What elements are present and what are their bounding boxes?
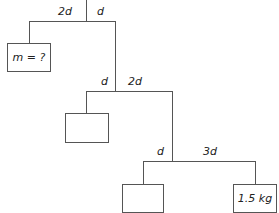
top-bar — [29, 21, 116, 22]
known-mass-box: 1.5 kg — [233, 184, 277, 213]
middle-left-string — [86, 91, 87, 113]
middle-right-arm-label: 2d — [128, 76, 142, 88]
unknown-mass-box: m = ? — [7, 43, 51, 72]
top-left-arm-label: 2d — [58, 6, 72, 18]
bottom-right-arm-label: 3d — [203, 146, 217, 158]
middle-left-box — [65, 113, 109, 143]
bottom-string — [172, 91, 173, 161]
middle-bar — [86, 91, 173, 92]
top-right-arm-label: d — [97, 6, 104, 18]
unknown-mass-string — [29, 21, 30, 43]
bottom-left-string — [143, 161, 144, 184]
bottom-left-box — [122, 184, 164, 213]
top-string — [86, 0, 87, 21]
bottom-left-arm-label: d — [157, 146, 164, 158]
bottom-bar — [143, 161, 256, 162]
bottom-right-string — [255, 161, 256, 184]
middle-left-arm-label: d — [101, 76, 108, 88]
middle-string — [115, 21, 116, 91]
